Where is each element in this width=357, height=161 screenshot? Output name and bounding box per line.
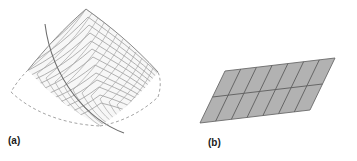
panel-b: (b) (178, 0, 357, 161)
caption-b: (b) (208, 138, 221, 148)
flat-grid-diagram (178, 0, 357, 161)
boundary-left-dashed (11, 70, 28, 92)
curved-surface-diagram (0, 0, 178, 161)
panel-a: (a) (0, 0, 178, 161)
caption-a: (a) (8, 136, 20, 146)
boundary-right-dashed (158, 72, 160, 97)
figure-root: (a) (b) (0, 0, 357, 161)
